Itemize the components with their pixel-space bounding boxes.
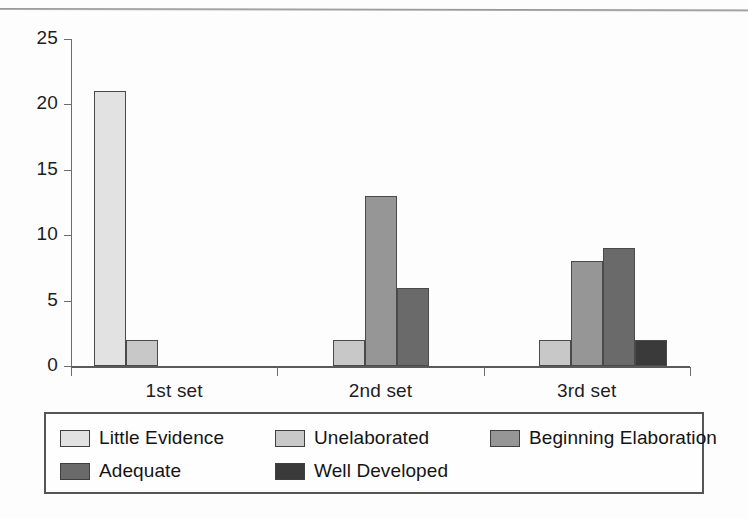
chart-legend-items: Little EvidenceUnelaboratedBeginning Ela… [60, 423, 692, 489]
legend-item-label: Unelaborated [314, 427, 429, 449]
bar [635, 340, 667, 366]
legend-swatch-icon [275, 463, 305, 480]
legend-item-label: Well Developed [314, 460, 448, 482]
bar [571, 261, 603, 366]
x-axis-category-label: 1st set [71, 380, 277, 402]
legend-swatch-icon [60, 463, 90, 480]
x-axis-category-label: 2nd set [277, 380, 483, 402]
x-axis-tick-mark [277, 367, 278, 376]
legend-swatch-icon [490, 430, 520, 447]
x-axis-tick-mark [484, 367, 485, 376]
legend-item[interactable]: Little Evidence [60, 423, 275, 453]
legend-item[interactable]: Well Developed [275, 456, 490, 486]
legend-swatch-icon [60, 430, 90, 447]
x-axis-category-label: 3rd set [484, 380, 690, 402]
bar [333, 340, 365, 366]
figure-canvas: 0510152025 1st set2nd set3rd set Little … [0, 0, 748, 519]
bar [126, 340, 158, 366]
legend-item-label: Adequate [99, 460, 181, 482]
bar [539, 340, 571, 366]
bar-chart-plot-area: 0510152025 1st set2nd set3rd set [0, 0, 748, 400]
legend-item[interactable]: Beginning Elaboration [490, 423, 692, 453]
bar [397, 288, 429, 366]
bar [603, 248, 635, 366]
bar-series-layer [0, 0, 748, 367]
legend-item[interactable]: Unelaborated [275, 423, 490, 453]
bar [365, 196, 397, 366]
legend-item-label: Little Evidence [99, 427, 224, 449]
x-axis-origin-tick [71, 367, 72, 376]
legend-item-label: Beginning Elaboration [529, 427, 717, 449]
legend-swatch-icon [275, 430, 305, 447]
x-axis-tick-mark [690, 367, 691, 376]
legend-item[interactable]: Adequate [60, 456, 275, 486]
bar [94, 91, 126, 366]
x-axis-line [71, 366, 690, 368]
chart-legend: Little EvidenceUnelaboratedBeginning Ela… [44, 412, 704, 494]
